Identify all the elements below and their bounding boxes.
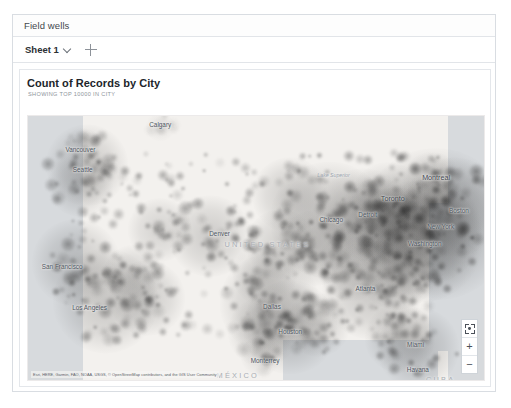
map-attribution: Esri, HERE, Garmin, FAO, NOAA, USGS, © O… (31, 371, 219, 378)
water-gulf (283, 340, 438, 381)
map-recenter-button[interactable] (462, 320, 477, 337)
plus-icon: + (466, 341, 472, 352)
add-sheet-button[interactable] (84, 43, 98, 57)
sheet-tab-label: Sheet 1 (25, 44, 59, 55)
sheet-tab-sheet-1[interactable]: Sheet 1 (21, 42, 75, 57)
screenshot-root: Field wells Sheet 1 Count of Records by … (0, 0, 511, 408)
chevron-down-icon[interactable] (64, 46, 71, 53)
water-pacific (27, 115, 83, 381)
map-basemap (28, 116, 484, 380)
map-canvas[interactable]: CalgaryVancouverSeattleSan FranciscoLos … (27, 115, 485, 381)
minus-icon: − (466, 359, 472, 370)
focus-recenter-icon (465, 324, 475, 334)
map-zoom-out-button[interactable]: − (462, 355, 477, 373)
map-controls: + − (461, 319, 478, 374)
visual-title: Count of Records by City (20, 70, 490, 89)
field-wells-bar[interactable]: Field wells (13, 15, 495, 37)
visual-card: Count of Records by City SHOWING TOP 100… (19, 69, 491, 387)
visual-panel: Field wells Sheet 1 Count of Records by … (12, 14, 496, 392)
sheet-tab-bar: Sheet 1 (13, 37, 495, 63)
map-zoom-in-button[interactable]: + (462, 337, 477, 355)
field-wells-label: Field wells (13, 20, 69, 31)
visual-subtitle: SHOWING TOP 10000 IN CITY (20, 89, 490, 97)
